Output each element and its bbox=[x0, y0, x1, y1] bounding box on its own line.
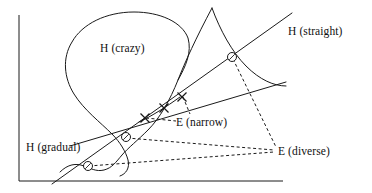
straight-hypothesis-line bbox=[52, 13, 292, 184]
axes-frame bbox=[19, 15, 283, 181]
label-e-narrow: E (narrow) bbox=[176, 117, 227, 129]
diagram-figure: H (crazy) H (straight) E (narrow) H (gra… bbox=[0, 0, 372, 193]
intersection-circle-bottom bbox=[84, 162, 93, 171]
example-mark-2 bbox=[160, 104, 169, 113]
axis-L-frame bbox=[19, 15, 283, 181]
intersection-circle-top bbox=[228, 53, 237, 62]
gradual-hypothesis-line bbox=[70, 82, 286, 146]
hypothesis-curves bbox=[52, 8, 292, 184]
diverse-to-circle-middle bbox=[127, 138, 274, 150]
crazy-hypothesis-curve bbox=[60, 8, 212, 172]
label-h-crazy: H (crazy) bbox=[100, 43, 145, 55]
label-h-gradual: H (gradual) bbox=[26, 142, 80, 154]
example-mark-3 bbox=[178, 93, 187, 102]
diverse-to-circle-top bbox=[233, 59, 276, 147]
intersection-circle-middle bbox=[122, 133, 131, 142]
crazy-hypothesis-tail bbox=[212, 8, 286, 86]
label-h-straight: H (straight) bbox=[288, 26, 343, 38]
crazy-hypothesis-loop bbox=[65, 12, 189, 176]
label-e-diverse: E (diverse) bbox=[278, 146, 330, 158]
diverse-to-circle-bottom bbox=[89, 152, 274, 166]
